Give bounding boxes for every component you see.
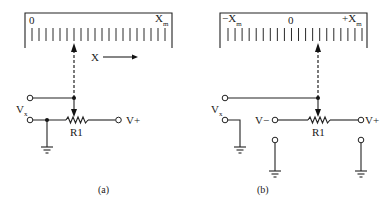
panel-caption: (a) [98,184,109,196]
ground-wire [228,120,240,147]
vx-terminal [222,117,228,123]
pointer-arrow-icon [71,43,77,52]
vminus-supply-terminal [272,137,278,143]
pointer-arrow-icon [315,43,321,52]
ground-icon [234,147,246,153]
vplus-supply-terminal [358,137,364,143]
pos-supply-label: V+ [365,114,379,126]
panel-b: −Xm 0 +Xm Vx V− V+ R1 [211,12,379,196]
vplus-terminal [358,117,364,123]
panel-caption: (b) [257,184,269,196]
scale-ticks [228,28,362,41]
scale-b: −Xm 0 +Xm [220,12,367,48]
wiper-arrow-icon [71,109,77,117]
direction-arrow-icon [132,55,138,60]
resistor-label: R1 [70,126,83,138]
scale-label-max: +Xm [342,12,362,28]
direction-label: X [91,51,99,63]
wiper-arrow-icon [315,109,321,117]
panel-a: 0 Xm X Vx V+ R1 (a) [16,12,172,196]
vplus-terminal [116,117,122,123]
input-label: Vx [16,103,28,118]
ground-icon [41,147,53,153]
ground-icon [269,171,281,177]
wiper-output-terminal [27,95,33,101]
potentiometer-r1 [66,117,88,123]
scale-label-min: −Xm [222,12,242,28]
scale-a: 0 Xm [25,12,172,48]
wiper-output-terminal [222,95,228,101]
vx-terminal [27,117,33,123]
input-label: Vx [211,103,223,118]
scale-label-max: Xm [155,12,169,28]
neg-supply-label: V− [255,114,269,126]
potentiometer-displacement-diagram: 0 Xm X Vx V+ R1 (a) [0,0,391,210]
supply-label: V+ [126,114,140,126]
potentiometer-r1 [308,117,330,123]
scale-label-zero: 0 [29,14,35,26]
scale-ticks [32,28,165,41]
scale-label-zero: 0 [288,14,294,26]
vminus-terminal [272,117,278,123]
scale-frame [25,13,172,48]
resistor-label: R1 [312,126,325,138]
ground-icon [355,171,367,177]
